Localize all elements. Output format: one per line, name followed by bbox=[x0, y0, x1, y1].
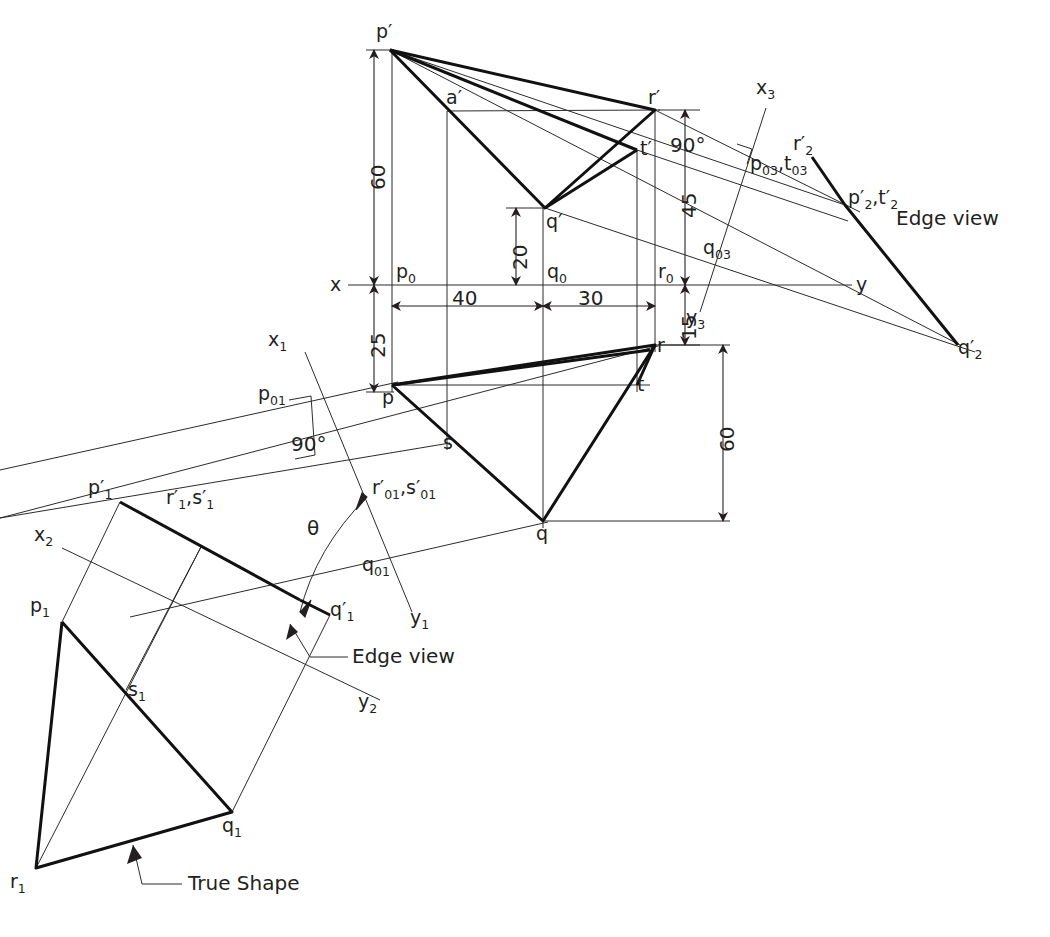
label-r2-prime: r′2 bbox=[793, 134, 813, 157]
label-t-prime: t′ bbox=[640, 139, 652, 158]
true-shape-leader-line bbox=[133, 845, 182, 884]
label-rs1-prime: r′1,s′1 bbox=[166, 488, 214, 511]
dim-label-45-right: 45 bbox=[679, 193, 699, 218]
proj-slope-p-upper bbox=[390, 50, 845, 205]
label-q1: q1 bbox=[222, 816, 242, 839]
theta-angle-arc bbox=[300, 497, 367, 612]
edge-view-leader-arrowhead bbox=[286, 624, 298, 640]
label-s1: s1 bbox=[128, 680, 146, 703]
dim-label-30-bottom: 30 bbox=[578, 288, 603, 308]
proj-r1prime-to-r1 bbox=[36, 545, 202, 868]
angle-label-90-aux1: 90° bbox=[291, 434, 326, 454]
theta-arrow-upper bbox=[356, 493, 367, 510]
angle-label-90-aux3: 90° bbox=[670, 135, 705, 155]
dim-label-20-mid: 20 bbox=[510, 245, 530, 270]
front-view-edge-q-t bbox=[545, 150, 637, 208]
true-shape-triangle-p1q1r1 bbox=[36, 622, 232, 868]
label-r1: r1 bbox=[10, 872, 26, 895]
x3-y3-reference-line bbox=[700, 108, 766, 312]
dim-label-40-bottom: 40 bbox=[452, 288, 477, 308]
front-view-triangle-pqr bbox=[390, 50, 655, 208]
label-p: p bbox=[382, 388, 394, 407]
label-q1-prime: q′1 bbox=[330, 600, 354, 623]
label-r0: r0 bbox=[658, 262, 674, 285]
construction-lines bbox=[0, 50, 975, 884]
label-x3-axis: x3 bbox=[756, 78, 775, 101]
label-q2-prime: q′2 bbox=[958, 338, 982, 361]
angle-label-theta: θ bbox=[307, 518, 319, 538]
label-p1-prime: p′1 bbox=[88, 478, 112, 501]
proj-p1prime-to-p1 bbox=[62, 502, 120, 622]
projection-drawing-canvas bbox=[0, 0, 1050, 937]
dim-label-25-left: 25 bbox=[368, 333, 388, 358]
label-p1: p1 bbox=[30, 596, 50, 619]
dim-label-15-right: 15 bbox=[679, 315, 699, 340]
label-q01: q01 bbox=[362, 555, 390, 578]
true-shape-leader-arrowhead bbox=[127, 845, 142, 864]
label-rs01: r′01,s′01 bbox=[372, 478, 436, 501]
label-r-prime: r′ bbox=[648, 88, 660, 107]
label-x1-axis: x1 bbox=[268, 330, 287, 353]
label-q0: q0 bbox=[547, 262, 567, 285]
label-q-prime: q′ bbox=[546, 212, 562, 231]
aux1-edge-segment-a bbox=[120, 502, 300, 600]
aux1-edge-view-line bbox=[120, 502, 330, 615]
label-p-prime: p′ bbox=[376, 22, 392, 41]
label-a-prime: a′ bbox=[446, 88, 462, 107]
top-view-edge-p-r2 bbox=[392, 350, 650, 385]
label-y1-axis: y1 bbox=[410, 608, 429, 631]
label-y2-axis: y2 bbox=[358, 692, 377, 715]
note-edge-view-right: Edge view bbox=[896, 208, 999, 228]
engineering-drawing-sheet: p′ a′ r′ t′ q′ p q r s t p0 q0 r0 p01 q0… bbox=[0, 0, 1050, 937]
label-s: s bbox=[443, 433, 453, 452]
label-p01: p01 bbox=[258, 384, 286, 407]
proj-slope-t-mid bbox=[637, 150, 848, 221]
label-t: t bbox=[637, 375, 644, 394]
front-view-outline bbox=[390, 50, 655, 208]
label-r: r bbox=[657, 336, 665, 355]
label-pt03: p03,t03 bbox=[750, 154, 807, 177]
dim-label-60-right: 60 bbox=[717, 427, 737, 452]
note-true-shape: True Shape bbox=[188, 873, 299, 893]
note-edge-view-aux: Edge view bbox=[352, 646, 455, 666]
label-q: q bbox=[536, 524, 548, 543]
aux1-proj-from-p bbox=[0, 382, 398, 470]
horiz-line-a-r bbox=[447, 110, 660, 111]
dim-label-60-left: 60 bbox=[368, 165, 388, 190]
proj-q1prime-to-q1 bbox=[232, 615, 330, 812]
true-shape-outline bbox=[36, 622, 232, 868]
label-x2-axis: x2 bbox=[34, 525, 53, 548]
front-view-edge-p-t bbox=[390, 50, 637, 150]
label-y-axis: y bbox=[856, 275, 867, 294]
label-q03: q03 bbox=[703, 238, 731, 261]
label-x-axis: x bbox=[330, 275, 341, 294]
label-p0: p0 bbox=[396, 262, 416, 285]
label-pt2-prime: p′2,t′2 bbox=[848, 188, 898, 211]
